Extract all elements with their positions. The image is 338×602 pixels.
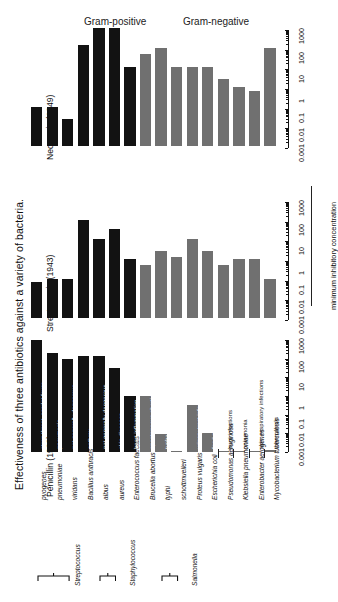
- disease-label-10: urinary tract infections: [196, 390, 202, 449]
- disease-label-11: food poisoning: [211, 410, 217, 449]
- disease-label-8: typhoid fever: [164, 415, 170, 449]
- disease-label-5: skin diseases: [118, 413, 124, 449]
- genus-brace-1: [99, 572, 117, 582]
- disease-label-14: skin, respiratory infections: [258, 380, 264, 449]
- species-label-8: typhi: [164, 486, 171, 500]
- species-label-4: albus: [102, 484, 109, 500]
- disease-label-6: heart inflammation: [133, 400, 139, 449]
- genus-label-2: Salmonella: [191, 553, 198, 586]
- disease-label-13: pneumonia: [242, 419, 248, 449]
- species-label-0: pyogenes: [40, 471, 47, 500]
- species-label-11: Escherichia coli: [211, 454, 218, 500]
- species-label-3: Bacillus anthracis: [87, 449, 94, 500]
- species-label-7: Brucella abortus: [149, 452, 156, 500]
- disease-separator: [218, 449, 219, 458]
- disease-label-0: strep throat, scarlet fever: [40, 383, 46, 449]
- genus-brace-0: [37, 572, 70, 582]
- genus-label-0: Streptococcus: [74, 544, 81, 586]
- species-label-5: aureus: [118, 480, 125, 500]
- disease-label-7: spontaneous abortion in cattle: [149, 369, 155, 449]
- disease-separator: [233, 449, 234, 458]
- disease-label-1: pneumonia: [56, 419, 62, 449]
- species-label-2: viridans: [71, 477, 78, 500]
- disease-label-12: burn infections: [227, 410, 233, 449]
- disease-label-3: anthrax: [87, 429, 93, 449]
- disease-label-2: not generally dangerous: [71, 385, 77, 449]
- species-label-9: schottmuelleri: [180, 459, 187, 500]
- genus-brace-2: [161, 572, 179, 582]
- disease-separator: [264, 449, 265, 458]
- disease-label-4: not generally dangerous: [102, 385, 108, 449]
- genus-label-1: Staphylococcus: [129, 540, 136, 586]
- species-label-10: Proteus vulgaris: [196, 453, 203, 500]
- disease-separator: [249, 449, 250, 458]
- disease-label-15: tuberculosis: [273, 417, 279, 449]
- species-label-1: pneumoniae: [56, 464, 63, 500]
- disease-label-9: paratyphoid fever: [180, 403, 186, 449]
